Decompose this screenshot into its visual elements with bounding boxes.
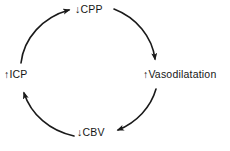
node-cpp-label: ↓CPP bbox=[75, 3, 103, 15]
arc-icp-to-cpp bbox=[21, 10, 69, 63]
arc-cpp-to-vasodilatation bbox=[114, 9, 155, 59]
node-vasodilatation-label: ↑Vasodilatation bbox=[143, 68, 216, 80]
node-cbv-label: ↓CBV bbox=[77, 126, 105, 138]
cycle-diagram: ↓CPP ↑Vasodilatation ↓CBV ↑ICP bbox=[0, 0, 230, 151]
arc-vasodilatation-to-cbv bbox=[118, 89, 156, 130]
arc-cbv-to-icp bbox=[24, 93, 74, 136]
node-icp-label: ↑ICP bbox=[4, 68, 28, 80]
